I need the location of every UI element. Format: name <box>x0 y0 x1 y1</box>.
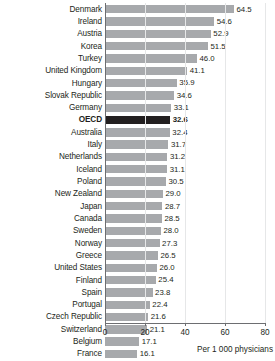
bar <box>105 153 167 161</box>
bar-row: Spain23.8 <box>0 286 275 298</box>
bar-row: Poland30.5 <box>0 175 275 187</box>
bar-track: 23.8 <box>105 286 275 298</box>
bar-row: Norway27.3 <box>0 237 275 249</box>
bar-category-label: Poland <box>0 177 105 186</box>
bar-row: Slovak Republic34.6 <box>0 89 275 101</box>
bar-value-label: 52.9 <box>211 29 229 38</box>
bar-row: Korea51.5 <box>0 40 275 52</box>
bar <box>105 91 174 99</box>
bar-value-label: 33.1 <box>171 103 189 112</box>
bar-category-label: OECD <box>0 115 105 124</box>
bar-value-label: 28.7 <box>162 202 180 211</box>
bar-track: 26.5 <box>105 249 275 261</box>
bar-category-label: Finland <box>0 276 105 285</box>
bar-category-label: Slovak Republic <box>0 91 105 100</box>
bar-row: Ireland54.6 <box>0 15 275 27</box>
bar-track: 52.9 <box>105 28 275 40</box>
bar-category-label: Switzerland <box>0 325 105 334</box>
bar <box>105 239 160 247</box>
bar-value-label: 32.6 <box>170 115 188 124</box>
bar-category-label: New Zealand <box>0 189 105 198</box>
bar-row: Japan28.7 <box>0 200 275 212</box>
bar-category-label: Denmark <box>0 5 105 14</box>
bar-category-label: Greece <box>0 251 105 260</box>
bar-row: Australia32.4 <box>0 126 275 138</box>
bar-category-label: Korea <box>0 42 105 51</box>
bar <box>105 313 148 321</box>
bar-track: 31.7 <box>105 138 275 150</box>
bar <box>105 17 214 25</box>
bar-value-label: 21.1 <box>147 325 165 334</box>
bar-row: United Kingdom41.1 <box>0 65 275 77</box>
bar-track: 29.0 <box>105 188 275 200</box>
bar <box>105 337 139 345</box>
x-axis-tick-label: 0 <box>103 328 108 338</box>
bar-track: 28.5 <box>105 212 275 224</box>
bar-category-label: Hungary <box>0 79 105 88</box>
bar-track: 27.3 <box>105 237 275 249</box>
bar-category-label: Australia <box>0 128 105 137</box>
bar-category-label: Portugal <box>0 300 105 309</box>
bar-category-label: Canada <box>0 214 105 223</box>
bar-value-label: 25.4 <box>156 275 174 284</box>
bar-track: 54.6 <box>105 15 275 27</box>
bar-value-label: 17.1 <box>139 337 157 346</box>
bar-track: 26.0 <box>105 262 275 274</box>
bar-row: Turkey46.0 <box>0 52 275 64</box>
bar <box>105 177 166 185</box>
x-axis-tick-mark <box>225 323 226 326</box>
bar-row: Switzerland21.1 <box>0 323 275 335</box>
bar-category-label: Austria <box>0 29 105 38</box>
bar-row: Germany33.1 <box>0 102 275 114</box>
bar <box>105 30 211 38</box>
bar-row: Czech Republic21.6 <box>0 311 275 323</box>
bar-value-label: 28.5 <box>162 214 180 223</box>
bar-value-label: 26.0 <box>157 263 175 272</box>
bar-value-label: 22.4 <box>150 300 168 309</box>
bar-track: 21.6 <box>105 311 275 323</box>
bar-category-label: France <box>0 349 105 358</box>
bar <box>105 276 156 284</box>
bar-value-label: 16.1 <box>137 349 155 358</box>
bar-value-label: 31.1 <box>167 165 185 174</box>
bar-row: Portugal22.4 <box>0 299 275 311</box>
bar <box>105 116 170 124</box>
bar <box>105 165 167 173</box>
bar-track: 22.4 <box>105 299 275 311</box>
bar-category-label: Netherlands <box>0 152 105 161</box>
bar-track: 31.1 <box>105 163 275 175</box>
bar-track: 41.1 <box>105 65 275 77</box>
x-axis-tick-label: 60 <box>220 328 229 338</box>
bar-track: 51.5 <box>105 40 275 52</box>
bar-value-label: 29.0 <box>163 189 181 198</box>
bar-category-label: Czech Republic <box>0 312 105 321</box>
bar-track: 34.6 <box>105 89 275 101</box>
bar <box>105 104 171 112</box>
bar-track: 33.1 <box>105 102 275 114</box>
bar-category-label: United Kingdom <box>0 66 105 75</box>
bar-category-label: Spain <box>0 288 105 297</box>
bar-track: 32.4 <box>105 126 275 138</box>
bar <box>105 190 163 198</box>
bar-track: 32.6 <box>105 114 275 126</box>
bar <box>105 301 150 309</box>
bar-value-label: 32.4 <box>170 128 188 137</box>
bar-row: New Zealand29.0 <box>0 188 275 200</box>
horizontal-bar-chart: Denmark64.5Ireland54.6Austria52.9Korea51… <box>0 0 275 361</box>
x-axis-tick-mark <box>265 323 266 326</box>
bar <box>105 251 158 259</box>
bar-category-label: United States <box>0 263 105 272</box>
bar-row: Denmark64.5 <box>0 3 275 15</box>
x-axis-tick-mark <box>145 323 146 326</box>
bar-value-label: 64.5 <box>234 5 252 14</box>
bar <box>105 350 137 358</box>
bar-row: Netherlands31.2 <box>0 151 275 163</box>
bar-track: 21.1 <box>105 323 275 335</box>
bar-row: OECD32.6 <box>0 114 275 126</box>
bar-category-label: Ireland <box>0 17 105 26</box>
x-axis-tick-mark <box>185 323 186 326</box>
bar <box>105 54 197 62</box>
bar-row: Italy31.7 <box>0 138 275 150</box>
bar-value-label: 31.2 <box>167 152 185 161</box>
bar-row: Greece26.5 <box>0 249 275 261</box>
